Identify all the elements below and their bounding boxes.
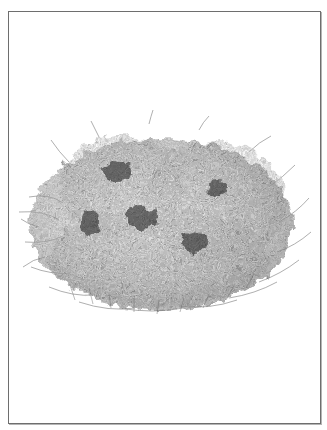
shrub-shading: [29, 138, 293, 310]
illustration-canvas: Illustration of a dense, rounded floweri…: [0, 0, 327, 430]
shrub-illustration: [9, 12, 321, 424]
picture-frame: Illustration of a dense, rounded floweri…: [8, 11, 321, 424]
